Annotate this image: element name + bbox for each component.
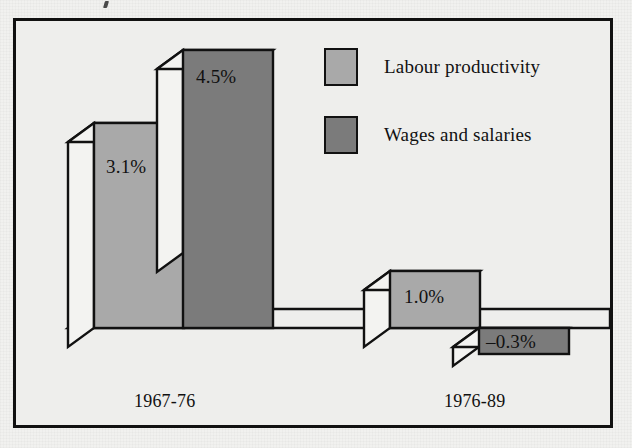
- legend-swatch-wages-and-salaries: [324, 116, 358, 154]
- bar-side-face: [157, 50, 183, 272]
- legend-label-wages-and-salaries: Wages and salaries: [384, 124, 532, 146]
- scan-artifact-speck: [103, 1, 109, 8]
- legend-swatch-labour-productivity: [324, 48, 358, 86]
- value-label-1976-89-labour-productivity: 1.0%: [404, 286, 444, 308]
- value-label-1976-89-wages-and-salaries: –0.3%: [486, 331, 536, 353]
- bar-chart-plot: [16, 21, 610, 425]
- category-label-1967-76: 1967-76: [134, 391, 195, 412]
- bar-1976-89-labour-productivity[interactable]: [364, 271, 480, 347]
- legend-label-labour-productivity: Labour productivity: [384, 56, 540, 78]
- bar-front-face: [183, 50, 273, 328]
- chart-frame: 3.1% 4.5% 1.0% –0.3% 1967-76 1976-89 Lab…: [13, 18, 613, 428]
- value-label-1967-76-wages-and-salaries: 4.5%: [196, 66, 236, 88]
- category-label-1976-89: 1976-89: [444, 391, 505, 412]
- bar-side-face: [68, 123, 94, 347]
- value-label-1967-76-labour-productivity: 3.1%: [106, 156, 146, 178]
